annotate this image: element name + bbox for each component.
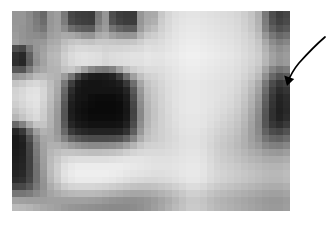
image-pixel — [172, 32, 179, 39]
image-pixel — [95, 52, 102, 59]
image-pixel — [227, 204, 234, 211]
image-pixel — [262, 114, 269, 121]
image-pixel — [248, 177, 255, 184]
image-pixel — [165, 45, 172, 52]
image-pixel — [12, 204, 19, 211]
image-pixel — [262, 80, 269, 87]
image-pixel — [54, 170, 61, 177]
image-pixel — [130, 59, 137, 66]
image-pixel — [12, 25, 19, 32]
image-pixel — [276, 11, 283, 18]
image-pixel — [200, 101, 207, 108]
image-pixel — [200, 94, 207, 101]
figure-caption — [0, 0, 1, 1]
image-pixel — [255, 101, 262, 108]
image-pixel — [283, 52, 290, 59]
image-pixel — [88, 80, 95, 87]
image-pixel — [40, 25, 47, 32]
image-pixel — [241, 18, 248, 25]
image-pixel — [283, 59, 290, 66]
image-pixel — [200, 87, 207, 94]
image-pixel — [269, 142, 276, 149]
image-pixel — [19, 121, 26, 128]
image-pixel — [109, 80, 116, 87]
image-pixel — [68, 101, 75, 108]
image-pixel — [269, 204, 276, 211]
image-pixel — [214, 170, 221, 177]
image-pixel — [95, 59, 102, 66]
image-pixel — [179, 45, 186, 52]
image-pixel — [186, 121, 193, 128]
image-pixel — [179, 73, 186, 80]
image-pixel — [109, 204, 116, 211]
image-pixel — [283, 25, 290, 32]
image-pixel — [276, 163, 283, 170]
image-pixel — [40, 114, 47, 121]
image-pixel — [172, 52, 179, 59]
image-pixel — [33, 135, 40, 142]
image-pixel — [220, 204, 227, 211]
image-pixel — [234, 101, 241, 108]
image-pixel — [151, 59, 158, 66]
image-pixel — [269, 11, 276, 18]
image-pixel — [123, 18, 130, 25]
image-pixel — [269, 121, 276, 128]
image-pixel — [165, 177, 172, 184]
image-pixel — [109, 94, 116, 101]
image-pixel — [12, 121, 19, 128]
image-pixel — [81, 142, 88, 149]
image-pixel — [262, 156, 269, 163]
image-pixel — [234, 197, 241, 204]
image-pixel — [19, 204, 26, 211]
image-pixel — [116, 197, 123, 204]
image-pixel — [26, 45, 33, 52]
image-pixel — [26, 163, 33, 170]
image-pixel — [241, 163, 248, 170]
image-pixel — [241, 149, 248, 156]
image-pixel — [61, 32, 68, 39]
image-pixel — [193, 142, 200, 149]
image-pixel — [186, 135, 193, 142]
image-pixel — [81, 190, 88, 197]
image-pixel — [207, 73, 214, 80]
image-pixel — [276, 156, 283, 163]
image-pixel — [26, 18, 33, 25]
image-pixel — [165, 18, 172, 25]
image-pixel — [95, 128, 102, 135]
image-pixel — [88, 149, 95, 156]
image-pixel — [130, 11, 137, 18]
image-pixel — [19, 66, 26, 73]
image-pixel — [116, 52, 123, 59]
image-pixel — [207, 94, 214, 101]
image-pixel — [255, 80, 262, 87]
image-pixel — [95, 108, 102, 115]
image-pixel — [19, 163, 26, 170]
image-pixel — [255, 149, 262, 156]
image-pixel — [227, 163, 234, 170]
image-pixel — [283, 183, 290, 190]
image-pixel — [262, 170, 269, 177]
image-pixel — [262, 128, 269, 135]
image-pixel — [47, 177, 54, 184]
image-pixel — [40, 73, 47, 80]
image-pixel — [207, 101, 214, 108]
image-pixel — [220, 163, 227, 170]
image-pixel — [207, 80, 214, 87]
image-pixel — [172, 25, 179, 32]
image-pixel — [158, 94, 165, 101]
image-pixel — [158, 39, 165, 46]
image-pixel — [102, 39, 109, 46]
image-pixel — [26, 32, 33, 39]
image-pixel — [234, 108, 241, 115]
image-pixel — [234, 170, 241, 177]
image-pixel — [137, 73, 144, 80]
image-pixel — [283, 163, 290, 170]
image-pixel — [255, 73, 262, 80]
image-pixel — [241, 135, 248, 142]
image-pixel — [102, 177, 109, 184]
image-pixel — [200, 149, 207, 156]
image-pixel — [95, 73, 102, 80]
image-pixel — [68, 39, 75, 46]
image-pixel — [102, 80, 109, 87]
image-pixel — [130, 170, 137, 177]
